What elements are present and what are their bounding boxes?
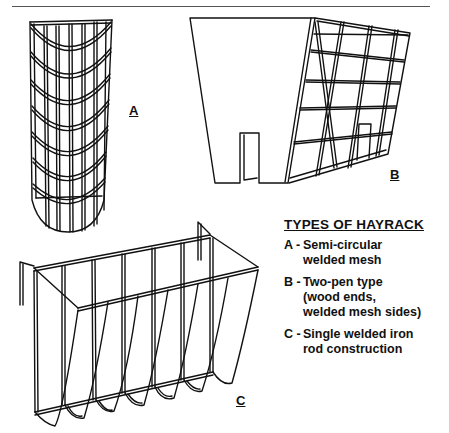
legend-key: A - [284,238,303,268]
legend-line: Semi-circular [303,238,449,253]
label-a: A [129,103,138,118]
legend-line: (wood ends, [303,290,449,305]
legend-line: welded mesh [303,253,449,268]
legend-item-a: A - Semi-circular welded mesh [284,238,449,268]
legend-text: Semi-circular welded mesh [303,238,449,268]
hayrack-a-drawing [30,20,112,232]
legend-line: rod construction [303,342,449,357]
legend: TYPES OF HAYRACK A - Semi-circular welde… [284,217,449,364]
legend-line: Single welded iron [303,327,449,342]
legend-key: C - [284,327,303,357]
legend-key: B - [284,275,303,320]
legend-item-b: B - Two-pen type (wood ends, welded mesh… [284,275,449,320]
hayrack-b-drawing [190,18,410,183]
label-c: C [236,393,245,408]
legend-line: welded mesh sides) [303,305,449,320]
legend-text: Two-pen type (wood ends, welded mesh sid… [303,275,449,320]
legend-title: TYPES OF HAYRACK [284,217,449,232]
legend-item-c: C - Single welded iron rod construction [284,327,449,357]
hayrack-c-drawing [20,222,258,426]
legend-text: Single welded iron rod construction [303,327,449,357]
label-b: B [390,167,399,182]
legend-line: Two-pen type [303,275,449,290]
